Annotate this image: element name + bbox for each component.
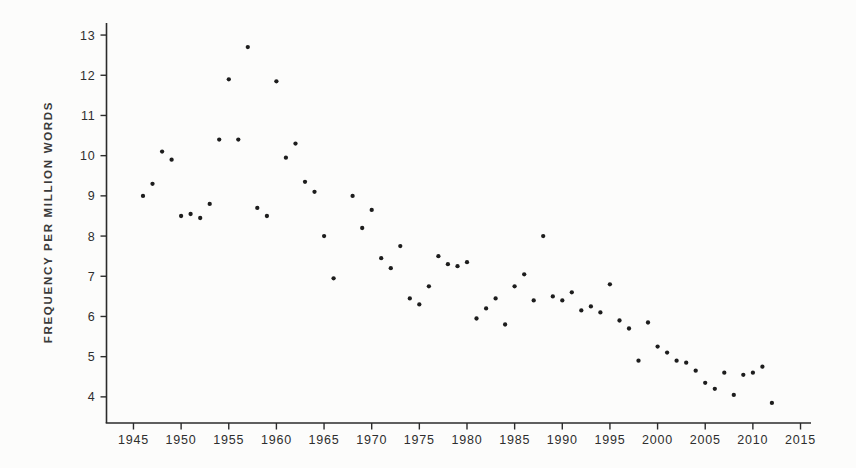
data-point [617,318,621,322]
y-tick-label: 5 [88,350,96,364]
data-point [379,256,383,260]
data-point [589,304,593,308]
x-tick-label: 1970 [356,433,387,447]
data-point [512,284,516,288]
x-tick-label: 2015 [785,433,816,447]
frequency-scatter-chart: FREQUENCY PER MILLION WORDS 456789101112… [0,0,856,468]
data-point [541,234,545,238]
data-point [227,77,231,81]
y-tick-label: 13 [80,29,96,43]
data-point [722,371,726,375]
data-point [322,234,326,238]
data-point [179,214,183,218]
data-point [169,158,173,162]
data-point [484,306,488,310]
data-point [331,276,335,280]
data-point [551,294,555,298]
data-point [598,310,602,314]
data-point [760,365,764,369]
y-tick-label: 7 [88,270,96,284]
x-tick-label: 1975 [404,433,435,447]
y-tick-label: 4 [88,390,96,404]
data-point [141,194,145,198]
data-point [636,359,640,363]
data-point [646,320,650,324]
x-tick-label: 1995 [594,433,625,447]
data-point [389,266,393,270]
x-tick-label: 1990 [547,433,578,447]
data-point [312,190,316,194]
data-point [493,296,497,300]
data-point [236,137,240,141]
data-point [284,156,288,160]
data-point [408,296,412,300]
data-point [770,401,774,405]
x-tick-label: 1985 [499,433,530,447]
x-tick-label: 1955 [213,433,244,447]
data-point [455,264,459,268]
data-point [360,226,364,230]
data-point [303,180,307,184]
x-tick-label: 1965 [309,433,340,447]
data-point [465,260,469,264]
x-tick-label: 1980 [451,433,482,447]
data-point [655,344,659,348]
y-tick-label: 6 [88,310,96,324]
data-point [370,208,374,212]
data-point [246,45,250,49]
y-tick-label: 10 [80,149,96,163]
data-point [713,387,717,391]
data-point [732,393,736,397]
data-point [255,206,259,210]
x-tick-label: 1960 [261,433,292,447]
data-point [150,182,154,186]
data-point [665,350,669,354]
y-tick-label: 12 [80,69,96,83]
data-point [684,361,688,365]
data-point [751,371,755,375]
data-point [522,272,526,276]
data-point [436,254,440,258]
data-point [293,141,297,145]
data-point [694,369,698,373]
data-point [350,194,354,198]
x-tick-label: 2000 [642,433,673,447]
data-point [427,284,431,288]
data-point [608,282,612,286]
data-point [208,202,212,206]
data-point [703,381,707,385]
data-point [446,262,450,266]
x-tick-label: 2010 [737,433,768,447]
data-point [188,212,192,216]
data-point [570,290,574,294]
data-point [579,308,583,312]
data-point [265,214,269,218]
data-point [674,359,678,363]
data-point [503,322,507,326]
y-tick-label: 9 [88,189,96,203]
data-point [560,298,564,302]
data-point [398,244,402,248]
data-point [274,79,278,83]
x-tick-label: 2005 [690,433,721,447]
y-tick-label: 8 [88,230,96,244]
data-point [532,298,536,302]
plot-area: 4567891011121319451950195519601965197019… [0,0,856,468]
y-tick-label: 11 [81,109,96,123]
data-point [741,373,745,377]
data-point [160,149,164,153]
data-point [627,326,631,330]
x-tick-label: 1945 [118,433,149,447]
data-point [198,216,202,220]
data-point [474,316,478,320]
x-tick-label: 1950 [166,433,197,447]
data-point [417,302,421,306]
data-point [217,137,221,141]
